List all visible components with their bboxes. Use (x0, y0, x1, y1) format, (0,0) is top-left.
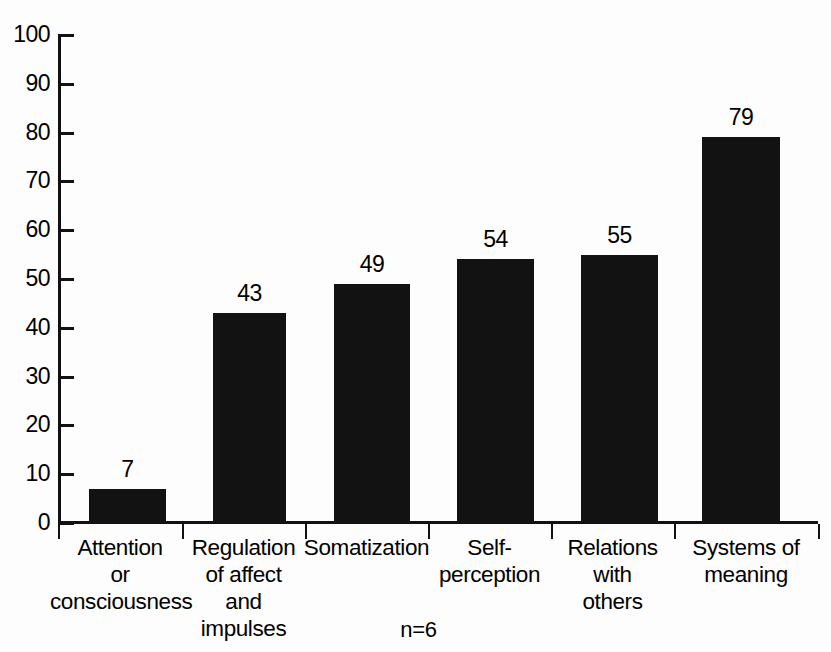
category-label-line: and (174, 588, 313, 615)
y-axis-tick-label: 50 (4, 267, 50, 290)
bar (213, 313, 286, 523)
y-axis-tick-label: 0 (4, 511, 50, 534)
y-axis-tick-label: 20 (4, 413, 50, 436)
category-label-line: with (543, 561, 682, 588)
category-label-line: Regulation (174, 534, 313, 561)
y-axis-tick (61, 522, 74, 525)
bar-value-label: 54 (427, 228, 564, 251)
bar (702, 137, 780, 523)
bar (334, 284, 410, 523)
y-axis-tick (61, 376, 74, 379)
category-label-line: Systems of (666, 534, 826, 561)
bar-chart-figure: 1009080706050403020100 74349545579 Atten… (0, 0, 831, 652)
category-label-line: or (50, 561, 190, 588)
y-axis-tick (61, 83, 74, 86)
sample-size-text: n=6 (400, 618, 436, 642)
sample-size-caption: n=6 (0, 618, 831, 642)
y-axis-tick-label: 60 (4, 218, 50, 241)
bar (457, 259, 534, 523)
x-axis-category-label: Relationswithothers (543, 534, 682, 615)
bar-value-label: 55 (551, 224, 688, 247)
y-axis-tick-label: 30 (4, 365, 50, 388)
bar-value-label: 79 (672, 106, 810, 129)
y-axis-tick (61, 229, 74, 232)
y-axis-tick (61, 34, 74, 37)
category-label-line: consciousness (50, 588, 190, 615)
category-label-line: perception (420, 561, 559, 588)
bar-value-label: 7 (59, 458, 196, 481)
y-axis-tick-label: 80 (4, 121, 50, 144)
y-axis-tick (61, 327, 74, 330)
bar (581, 255, 658, 523)
y-axis-tick (61, 424, 74, 427)
x-axis-category-label: Self-perception (420, 534, 559, 588)
bar (89, 489, 166, 523)
y-axis-tick-label: 90 (4, 72, 50, 95)
category-label-line: Self- (420, 534, 559, 561)
x-axis-category-label: Systems ofmeaning (666, 534, 826, 588)
x-axis-category-label: Somatization (297, 534, 436, 561)
bar-value-label: 43 (183, 282, 316, 305)
category-label-line: meaning (666, 561, 826, 588)
category-label-line: Relations (543, 534, 682, 561)
x-axis-category-label: Attentionorconsciousness (50, 534, 190, 615)
y-axis-tick-label: 10 (4, 462, 50, 485)
y-axis-tick (61, 180, 74, 183)
y-axis-tick-label: 40 (4, 316, 50, 339)
bar-value-label: 49 (304, 253, 440, 276)
y-axis-tick (61, 278, 74, 281)
category-label-line: Somatization (297, 534, 436, 561)
category-label-line: of affect (174, 561, 313, 588)
category-label-line: Attention (50, 534, 190, 561)
category-label-line: others (543, 588, 682, 615)
y-axis-tick-label: 100 (4, 23, 50, 46)
y-axis-tick-label: 70 (4, 169, 50, 192)
y-axis-tick (61, 132, 74, 135)
